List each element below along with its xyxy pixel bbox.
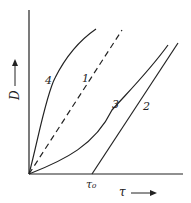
tau0-tick-label: τ₀ bbox=[86, 178, 97, 191]
x-axis-arrowhead-icon bbox=[150, 190, 157, 196]
curve-3-label: 3 bbox=[112, 98, 119, 111]
flow-curves-diagram: 4 1 3 2 τ₀ τ D bbox=[0, 0, 191, 203]
curve-4-label: 4 bbox=[44, 74, 52, 87]
curve-1-label: 1 bbox=[82, 72, 89, 85]
y-axis-label: D bbox=[8, 90, 22, 101]
curve-4 bbox=[29, 29, 96, 174]
x-axis-label: τ bbox=[119, 185, 126, 199]
curve-1-dashed bbox=[29, 30, 122, 174]
y-axis-arrowhead-icon bbox=[12, 59, 18, 66]
curve-2-label: 2 bbox=[142, 100, 150, 113]
curve-2 bbox=[92, 43, 178, 174]
